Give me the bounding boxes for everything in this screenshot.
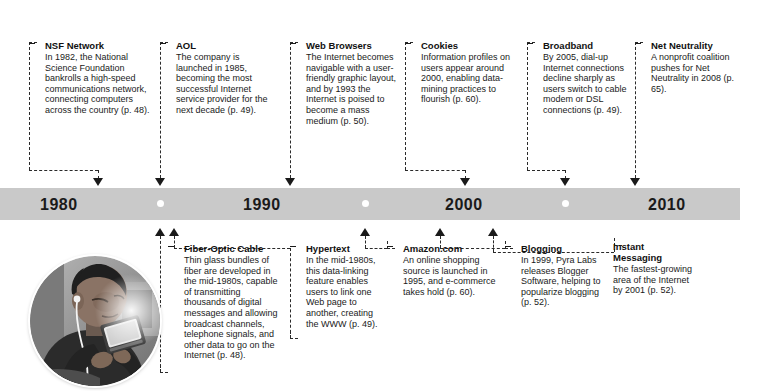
entry-title: Amazon.com bbox=[403, 243, 496, 254]
entry-body: The fastest-growing area of the Internet… bbox=[613, 264, 701, 296]
arrow-down-nsf-network bbox=[93, 178, 103, 186]
connector-vline-net-neutrality bbox=[635, 42, 636, 178]
arrow-down-broadband bbox=[560, 178, 570, 186]
entry-amazon-com: Amazon.com An online shopping source is … bbox=[396, 243, 496, 297]
entry-title: Hypertext bbox=[306, 243, 385, 254]
entry-title-row-web-browsers: Web Browsers bbox=[299, 40, 399, 51]
connector-elbow-fiber-optic-cable bbox=[160, 365, 168, 373]
entry-title-row-net-neutrality: Net Neutrality bbox=[644, 40, 740, 51]
entry-blogging: Blogging In 1999, Pyra Labs releases Blo… bbox=[514, 243, 604, 308]
decade-label-1990: 1990 bbox=[243, 189, 281, 221]
connector-vline-cookies bbox=[405, 42, 406, 170]
entry-title-row-hypertext: Hypertext bbox=[299, 243, 385, 254]
timeline-midpoint-dot bbox=[562, 200, 569, 207]
arrow-down-web-browsers bbox=[285, 178, 295, 186]
entry-title: Broadband bbox=[543, 40, 634, 51]
connector-vline-hypertext bbox=[290, 248, 291, 338]
entry-body: In the mid-1980s, this data-linking feat… bbox=[299, 255, 385, 329]
connector-hline-cookies bbox=[405, 170, 465, 171]
entry-title-row-instant-messaging: Instant Messaging bbox=[613, 241, 701, 263]
entry-net-neutrality: Net Neutrality A nonprofit coalition pus… bbox=[644, 40, 740, 94]
entry-nsf-network: NSF Network In 1982, the National Scienc… bbox=[38, 40, 150, 116]
entry-title: Web Browsers bbox=[306, 40, 399, 51]
entry-body: The Internet becomes navigable with a us… bbox=[299, 52, 399, 126]
entry-fiber-optic-cable: Fiber-Optic Cable Thin glass bundles of … bbox=[177, 243, 283, 361]
arrow-up-hypertext bbox=[169, 228, 179, 236]
arrow-down-net-neutrality bbox=[630, 178, 640, 186]
entry-body: Information profiles on users appear aro… bbox=[414, 52, 518, 105]
arrow-up-fiber-optic-cable bbox=[155, 228, 165, 236]
connector-hline-nsf-network bbox=[29, 170, 98, 171]
entry-title-row-cookies: Cookies bbox=[414, 40, 518, 51]
entry-title: Cookies bbox=[421, 40, 518, 51]
arrow-up-blogging bbox=[435, 228, 445, 236]
connector-elbow-hypertext bbox=[290, 331, 298, 339]
dash-marker-icon bbox=[290, 246, 296, 247]
timeline-infographic: NSF Network In 1982, the National Scienc… bbox=[0, 0, 777, 391]
connector-elbow-blogging bbox=[505, 241, 513, 249]
dash-marker-icon bbox=[387, 246, 393, 247]
timeline-midpoint-dot bbox=[362, 200, 369, 207]
entry-body: In 1999, Pyra Labs releases Blogger Soft… bbox=[514, 255, 604, 308]
dash-marker-icon bbox=[290, 43, 296, 44]
dash-marker-icon bbox=[160, 43, 166, 44]
entry-title-row-broadband: Broadband bbox=[536, 40, 634, 51]
decade-label-2000: 2000 bbox=[445, 189, 483, 221]
connector-hline-broadband bbox=[527, 170, 565, 171]
entry-body: In 1982, the National Science Foundation… bbox=[38, 52, 150, 116]
entry-cookies: Cookies Information profiles on users ap… bbox=[414, 40, 518, 105]
entry-body: The company is launched in 1985, becomin… bbox=[169, 52, 277, 116]
dash-marker-icon bbox=[29, 43, 35, 44]
entry-title: Instant Messaging bbox=[613, 241, 675, 263]
entry-title: AOL bbox=[176, 40, 277, 51]
entry-body: A nonprofit coalition pushes for Net Neu… bbox=[644, 52, 740, 94]
entry-title: Fiber-Optic Cable bbox=[184, 243, 283, 254]
entry-title: Blogging bbox=[521, 243, 604, 254]
entry-title: NSF Network bbox=[45, 40, 150, 51]
connector-vline-aol bbox=[160, 42, 161, 178]
entry-title: Net Neutrality bbox=[651, 40, 740, 51]
entry-title-row-amazon-com: Amazon.com bbox=[396, 243, 496, 254]
entry-title-row-nsf-network: NSF Network bbox=[38, 40, 150, 51]
entry-instant-messaging: Instant Messaging The fastest-growing ar… bbox=[613, 241, 701, 296]
connector-vline-hypertext-stub bbox=[174, 236, 175, 248]
timeline-midpoint-dot bbox=[157, 200, 164, 207]
arrow-down-aol bbox=[155, 178, 165, 186]
connector-vline-fiber-optic-cable bbox=[160, 236, 161, 372]
dash-marker-icon bbox=[168, 246, 174, 247]
entry-title-row-fiber-optic-cable: Fiber-Optic Cable bbox=[177, 243, 283, 254]
entry-title-row-aol: AOL bbox=[169, 40, 277, 51]
connector-vline-broadband bbox=[527, 42, 528, 170]
entry-body: By 2005, dial-up Internet connections de… bbox=[536, 52, 634, 116]
decade-label-1980: 1980 bbox=[40, 189, 78, 221]
entry-broadband: Broadband By 2005, dial-up Internet conn… bbox=[536, 40, 634, 116]
connector-vline-web-browsers bbox=[290, 42, 291, 178]
connector-elbow-amazon-com bbox=[387, 241, 395, 249]
dash-marker-icon bbox=[635, 43, 641, 44]
entry-web-browsers: Web Browsers The Internet becomes naviga… bbox=[299, 40, 399, 126]
dash-marker-icon bbox=[527, 43, 533, 44]
dash-marker-icon bbox=[405, 43, 411, 44]
dash-marker-icon bbox=[505, 246, 511, 247]
entry-title-row-blogging: Blogging bbox=[514, 243, 604, 254]
entry-body: An online shopping source is launched in… bbox=[396, 255, 496, 297]
connector-vline-nsf-network bbox=[29, 42, 30, 170]
arrow-up-instant-messaging bbox=[488, 228, 498, 236]
arrow-down-cookies bbox=[460, 178, 470, 186]
timeline-bar bbox=[0, 188, 740, 220]
entry-body: Thin glass bundles of fiber are develope… bbox=[177, 255, 283, 361]
entry-aol: AOL The company is launched in 1985, bec… bbox=[169, 40, 277, 116]
teen-with-handheld-device-photo bbox=[30, 256, 160, 386]
entry-hypertext: Hypertext In the mid-1980s, this data-li… bbox=[299, 243, 385, 329]
arrow-up-amazon-com bbox=[360, 228, 370, 236]
decade-label-2010: 2010 bbox=[648, 189, 686, 221]
